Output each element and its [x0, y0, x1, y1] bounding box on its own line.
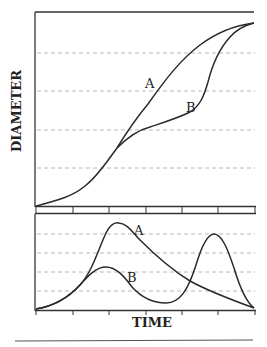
- diameter-curve-a: [36, 23, 254, 206]
- rate-chart: A B TIME: [35, 214, 256, 330]
- bottom-separator: [15, 340, 253, 341]
- diameter-label-b: B: [186, 100, 196, 115]
- diameter-curve-b: [117, 23, 254, 148]
- rate-label-b: B: [127, 270, 137, 285]
- figure: A B DIAMETER A B TIME: [0, 0, 267, 347]
- diameter-axis-title: DIAMETER: [9, 70, 24, 152]
- diameter-gridlines: [37, 53, 255, 168]
- rate-gridlines: [37, 234, 255, 291]
- diameter-label-a: A: [144, 76, 155, 91]
- diameter-chart: A B DIAMETER: [9, 12, 256, 214]
- diameter-axes: [35, 12, 256, 214]
- rate-label-a: A: [133, 223, 144, 238]
- time-ticks: [36, 207, 255, 213]
- time-axis-title: TIME: [132, 315, 172, 330]
